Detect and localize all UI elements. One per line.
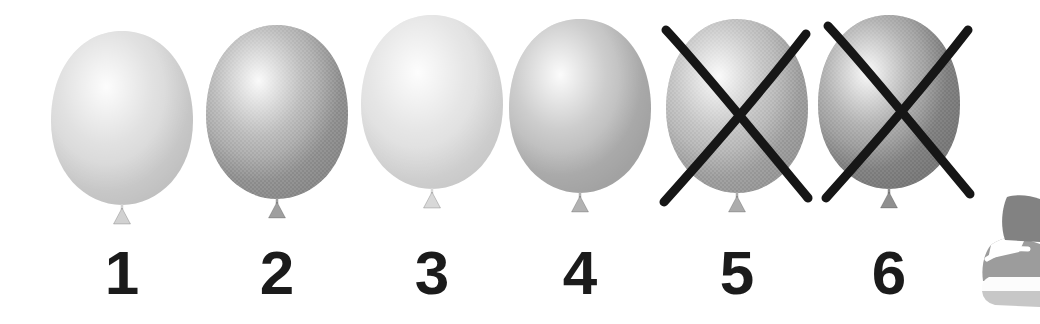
balloon-slot-2[interactable]: 2	[202, 0, 352, 324]
balloon-counting-scene: 1	[0, 0, 1040, 324]
balloon-number-3: 3	[357, 242, 507, 304]
balloon-6-graphic	[814, 12, 964, 212]
balloon-knot	[729, 196, 746, 212]
balloon-2-graphic	[202, 22, 352, 222]
balloon-slot-4[interactable]: 4	[505, 0, 655, 324]
balloon-knot	[114, 208, 131, 224]
balloon-1-graphic	[47, 28, 197, 228]
balloon-number-2: 2	[202, 242, 352, 304]
balloon-slot-1[interactable]: 1	[47, 0, 197, 324]
balloon-5-graphic	[662, 16, 812, 216]
balloon-knot	[572, 196, 589, 212]
balloon-number-6: 6	[814, 242, 964, 304]
balloon-3-graphic	[357, 12, 507, 212]
balloon-slot-5[interactable]: 5	[662, 0, 812, 324]
balloon-slot-3[interactable]: 3	[357, 0, 507, 324]
balloon-number-4: 4	[505, 242, 655, 304]
balloon-4-graphic	[505, 16, 655, 216]
balloon-slot-6[interactable]: 6	[814, 0, 964, 324]
balloon-knot	[881, 192, 898, 208]
balloon-number-5: 5	[662, 242, 812, 304]
balloon-knot	[269, 202, 286, 218]
sneaker-icon	[980, 195, 1040, 310]
balloon-knot	[424, 192, 441, 208]
balloon-number-1: 1	[47, 242, 197, 304]
